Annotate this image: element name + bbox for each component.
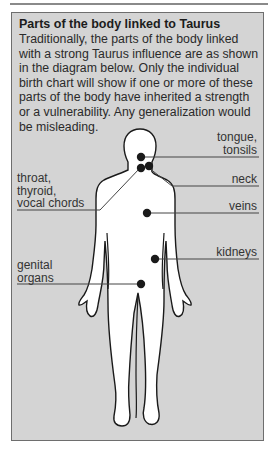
label-throat: throat, <box>17 172 84 185</box>
label-kidneys: kidneys <box>216 246 257 259</box>
label-genital: genital <box>17 259 54 272</box>
dot-genital <box>137 280 145 288</box>
dot-kidneys <box>151 255 159 263</box>
body-diagram <box>12 13 265 442</box>
label-genital-organs: genital organs <box>17 259 54 284</box>
label-organs: organs <box>17 272 54 285</box>
label-tonsils: tonsils <box>217 144 257 157</box>
top-rule <box>10 3 268 5</box>
dot-neck <box>145 162 153 170</box>
dot-veins <box>143 209 151 217</box>
label-neck: neck <box>232 173 257 186</box>
label-vocal-chords: vocal chords <box>17 197 84 210</box>
label-throat-group: throat, thyroid, vocal chords <box>17 172 84 210</box>
dot-throat <box>137 164 145 172</box>
label-veins: veins <box>229 200 257 213</box>
dot-tongue <box>137 153 145 161</box>
label-tongue: tongue, <box>217 131 257 144</box>
label-tongue-tonsils: tongue, tonsils <box>217 131 257 156</box>
info-panel: Parts of the body linked to Taurus Tradi… <box>11 12 264 441</box>
